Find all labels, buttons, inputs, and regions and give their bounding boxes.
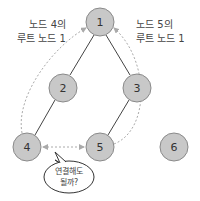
svg-text:3: 3: [134, 82, 141, 95]
node-1: 1: [86, 8, 114, 36]
annotation-node5-root-line2: 루트 노드 1: [136, 33, 185, 44]
svg-text:될까?: 될까?: [60, 178, 78, 187]
union-find-diagram: 1 2 3 4 5 6 노드 4의 루트 노드 1 노드 5의 루트 노드 1 …: [0, 0, 200, 201]
edge-3-5: [108, 100, 129, 135]
edge-2-4: [35, 100, 55, 135]
speech-bubble: 연결해도 될까?: [44, 152, 94, 193]
node-6: 6: [160, 133, 188, 161]
annotation-node4-root-line2: 루트 노드 1: [17, 33, 66, 44]
node-4: 4: [13, 133, 41, 161]
annotation-node4-root-line1: 노드 4의: [29, 19, 66, 30]
node-3: 3: [123, 74, 151, 102]
svg-text:2: 2: [60, 82, 67, 95]
svg-text:6: 6: [171, 141, 178, 154]
node-5: 5: [86, 133, 114, 161]
edge-1-3: [106, 35, 130, 75]
annotation-node5-root-line1: 노드 5의: [136, 19, 173, 30]
svg-text:1: 1: [97, 16, 104, 29]
svg-text:4: 4: [24, 141, 31, 154]
edge-1-2: [70, 35, 94, 75]
node-2: 2: [49, 74, 77, 102]
svg-text:연결해도: 연결해도: [55, 166, 83, 176]
svg-text:5: 5: [97, 141, 104, 154]
